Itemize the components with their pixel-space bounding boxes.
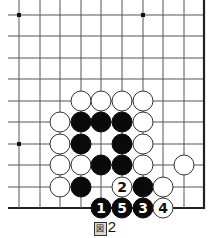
black-stone [133, 177, 153, 197]
move-number: 3 [138, 200, 148, 216]
figure-number: 2 [108, 218, 116, 235]
white-stone [50, 177, 70, 197]
white-stone [71, 91, 91, 111]
black-stone [91, 155, 111, 175]
white-stone [174, 155, 194, 175]
white-stone-move-4: 4 [153, 198, 173, 218]
star-point [141, 13, 145, 17]
white-stone [133, 91, 153, 111]
black-stone-move-1: 1 [91, 198, 111, 218]
black-stone [71, 112, 91, 132]
black-stone-move-5: 5 [112, 198, 132, 218]
white-stone [50, 112, 70, 132]
white-stone [50, 134, 70, 154]
star-point [17, 142, 21, 146]
move-number: 2 [117, 179, 127, 195]
move-number: 1 [96, 200, 106, 216]
black-stone [112, 112, 132, 132]
move-number: 5 [117, 200, 127, 216]
stones-layer: 21534 [50, 91, 194, 218]
black-stone [112, 134, 132, 154]
go-board-diagram: 21534 [0, 0, 210, 238]
white-stone [50, 155, 70, 175]
star-point [17, 13, 21, 17]
white-stone [133, 112, 153, 132]
figure-icon: 図 [94, 222, 107, 236]
move-number: 4 [158, 200, 168, 216]
white-stone [133, 155, 153, 175]
black-stone [91, 112, 111, 132]
black-stone-move-3: 3 [133, 198, 153, 218]
white-stone [133, 134, 153, 154]
black-stone [112, 155, 132, 175]
black-stone [71, 134, 91, 154]
white-stone-move-2: 2 [112, 177, 132, 197]
white-stone [112, 91, 132, 111]
figure-caption: 図2 [0, 219, 210, 236]
black-stone [71, 177, 91, 197]
white-stone [153, 177, 173, 197]
white-stone [71, 155, 91, 175]
white-stone [91, 91, 111, 111]
